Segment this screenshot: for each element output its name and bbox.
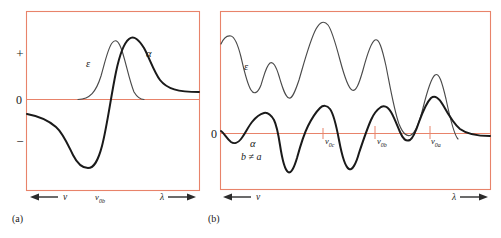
panel-a-nu0b-sub: 0b	[99, 198, 105, 204]
panel-b-nu0c-sub: 0c	[329, 142, 335, 148]
panel-b-epsilon-curve	[221, 22, 458, 139]
panel-a-epsilon-curve	[78, 41, 144, 100]
panel-a-caption: (a)	[12, 213, 23, 225]
panel-a-frame	[27, 12, 200, 191]
panel-a-ylabel-negative: −	[16, 134, 23, 149]
panel-b-ylabel-zero: 0	[211, 127, 217, 141]
panel-b-lambda-arrow-head	[479, 194, 488, 201]
panel-a-lambda-arrow-head	[187, 194, 196, 201]
panel-a-alpha-curve	[27, 38, 199, 168]
panel-a-lambda-axis: λ	[159, 192, 196, 202]
panel-b-nu0b-label: ν0b	[377, 136, 387, 148]
panel-b-nu0b-sub: 0b	[381, 142, 387, 148]
figure-canvas: + 0 − ε α ν ν0b λ (a)	[0, 0, 501, 238]
dispersion-figure: + 0 − ε α ν ν0b λ (a)	[0, 0, 501, 238]
panel-b-nu-label: ν	[256, 192, 261, 202]
panel-b-nu0a-sub: 0a	[435, 142, 441, 148]
panel-a-nu-arrow-head	[30, 194, 39, 201]
panel-b-epsilon-label: ε	[244, 61, 249, 72]
panel-a-ylabel-positive: +	[16, 46, 23, 61]
panel-b-alpha-label: α	[250, 138, 256, 149]
panel-b-nu-arrow-head	[223, 194, 232, 201]
panel-b-nu-axis: ν	[223, 192, 261, 202]
panel-a-nu0b-label: ν0b	[95, 192, 105, 204]
panel-a-nu-axis: ν	[30, 192, 68, 202]
panel-a-epsilon-label: ε	[86, 58, 91, 69]
panel-b-caption: (b)	[208, 213, 220, 225]
panel-a-ylabel-zero: 0	[16, 93, 22, 107]
panel-a-alpha-label: α	[146, 48, 152, 59]
panel-a: + 0 − ε α ν ν0b λ (a)	[12, 12, 200, 226]
panel-a-nu-label: ν	[63, 192, 68, 202]
panel-b-lambda-axis: λ	[451, 192, 488, 202]
panel-b: 0 ε α b ≠ a ν0c ν0b ν0a ν λ (b)	[208, 12, 491, 226]
panel-a-lambda-label: λ	[159, 192, 164, 202]
panel-b-nu0a-label: ν0a	[431, 136, 441, 148]
panel-b-nu0c-label: ν0c	[325, 136, 335, 148]
panel-b-lambda-label: λ	[451, 192, 456, 202]
panel-b-annotation: b ≠ a	[241, 151, 262, 162]
